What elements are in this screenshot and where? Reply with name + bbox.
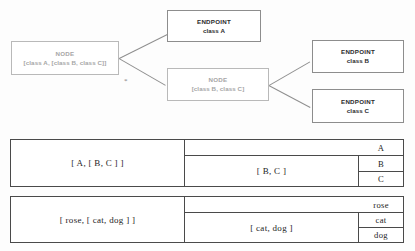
endpoint-c-box[interactable]: ENDPOINT class C: [312, 89, 404, 123]
endpoint-a-type-label: ENDPOINT: [197, 18, 231, 25]
node-root-box[interactable]: NODE [class A, [class B, class C]]: [11, 41, 119, 75]
endpoint-b-box[interactable]: ENDPOINT class B: [312, 40, 404, 73]
edge-node-sub-to-endpoint-c: [269, 85, 311, 108]
table-2-leaf-cell-1: rose: [359, 197, 403, 212]
edge-node-sub-to-endpoint-b: [269, 62, 310, 86]
structure-table-abc: [ A, [ B, C ] ] [ B, C ] A B C: [10, 139, 404, 187]
endpoint-a-value-label: class A: [203, 27, 225, 34]
table-1-outer-cell: [ A, [ B, C ] ]: [11, 140, 185, 186]
asterisk-marker: *: [124, 78, 128, 85]
table-2-inner-cell: [ cat, dog ]: [185, 212, 359, 242]
table-2-outer-cell: [ rose, [ cat, dog ] ]: [11, 197, 185, 242]
table-2-leaf-cell-3: dog: [359, 227, 403, 242]
node-sub-type-label: NODE: [209, 76, 228, 83]
table-1-leaf-cell-2: B: [359, 155, 403, 171]
table-1-leaf-cell-3: C: [359, 171, 403, 186]
endpoint-c-value-label: class C: [347, 107, 369, 114]
table-1-leaf-cell-1: A: [359, 140, 403, 155]
diagram-page: * NODE [class A, [class B, class C]] NOD…: [0, 0, 415, 251]
endpoint-c-type-label: ENDPOINT: [341, 98, 375, 105]
edge-root-to-endpoint-a: [119, 33, 170, 59]
node-sub-value-label: [class B, class C]: [192, 85, 245, 92]
table-1-inner-cell: [ B, C ]: [185, 155, 359, 186]
node-root-value-label: [class A, [class B, class C]]: [24, 59, 107, 66]
table-2-leaf-cell-2: cat: [359, 212, 403, 227]
node-root-type-label: NODE: [56, 50, 75, 57]
endpoint-b-value-label: class B: [347, 57, 369, 64]
node-sub-box[interactable]: NODE [class B, class C]: [167, 68, 269, 101]
endpoint-b-type-label: ENDPOINT: [341, 48, 375, 55]
endpoint-a-box[interactable]: ENDPOINT class A: [167, 10, 261, 42]
structure-table-words: [ rose, [ cat, dog ] ] [ cat, dog ] rose…: [10, 196, 404, 243]
